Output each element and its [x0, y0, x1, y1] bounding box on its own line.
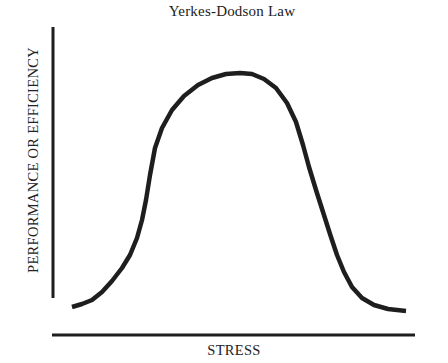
- x-axis-label: STRESS: [52, 342, 416, 359]
- performance-curve: [72, 73, 406, 311]
- plot-area: [0, 0, 448, 363]
